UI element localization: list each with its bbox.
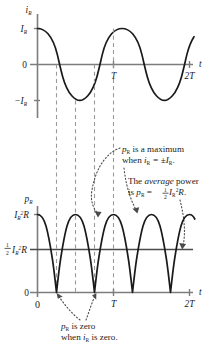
zero-note-line1: pR is zero [60,321,96,332]
average-note-line2-tail: IR2R. [168,187,186,199]
current-xtick-label-2T: 2T [185,71,196,81]
max-note-line2: when iR = ±IR. [122,155,175,166]
svg-text:1: 1 [6,242,9,248]
power-xtick-label-2T: 2T [185,299,196,309]
power-curve [38,215,195,293]
zero-note-arrowhead-left [57,293,63,299]
power-x-axis-label: t [199,287,202,297]
average-note-line1: The average power [128,176,199,186]
current-ytick-label-IR: IR [20,24,28,35]
max-note-arrowhead-left [95,211,102,217]
zero-note-leader-right [86,296,95,320]
power-y-axis-label: pR [24,194,34,205]
zero-note-arrowhead-right [92,293,96,300]
svg-text:IR2R: IR2R [11,245,27,257]
ac-resistor-power-figure: iR t IR 0 −IR T 2T pR is a maximum when … [0,0,214,347]
max-note-leader-left [91,148,120,214]
power-ytick-label-I2R: IR2R [13,210,29,222]
power-xtick-label-T: T [111,299,117,309]
svg-text:2: 2 [164,194,167,200]
zero-note-leader-left [59,296,81,320]
power-xtick-label-zero: 0 [35,299,40,310]
average-note-arrowhead [179,243,186,249]
max-note-arrowhead-right [132,207,139,213]
current-y-axis-label: iR [26,5,33,16]
svg-text:1: 1 [164,187,167,193]
current-x-axis-label: t [199,59,202,69]
average-note-line2: is pR = [128,187,152,198]
max-note-line1: pR is a maximum [121,144,184,155]
current-ytick-label-neg-IR: −IR [14,96,27,107]
zero-note-line2: when iR is zero. [61,332,118,343]
current-ytick-label-zero: 0 [22,60,27,70]
figure-svg: iR t IR 0 −IR T 2T pR is a maximum when … [0,0,214,347]
average-note-half-fraction: 1 2 [163,187,169,200]
power-ytick-label-half-I2R: 1 2 IR2R [5,242,28,256]
svg-text:2: 2 [6,250,9,256]
power-ytick-label-zero: 0 [24,288,29,298]
